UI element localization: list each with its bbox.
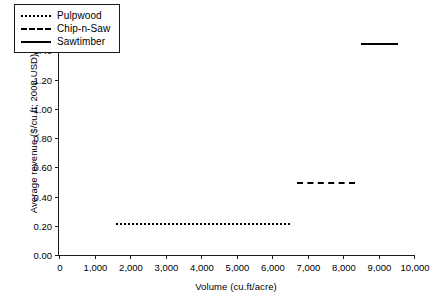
x-axis-tick-label: 9,000	[368, 262, 392, 273]
x-axis-tick: 10,000	[414, 255, 415, 259]
series-line-sawtimber	[361, 43, 398, 45]
x-axis-tick-label: 8,000	[332, 262, 356, 273]
x-axis-tick-label: 1,000	[84, 262, 108, 273]
y-axis-tick: 1.20	[55, 80, 59, 81]
y-axis-tick: 0.60	[55, 167, 59, 168]
series-line-chip-n-saw	[297, 182, 356, 184]
series-line-pulpwood	[116, 223, 290, 225]
x-axis-tick-label: 0	[57, 262, 62, 273]
y-axis-tick-label: 1.00	[34, 104, 53, 115]
x-axis-tick: 5,000	[237, 255, 238, 259]
legend-item-label: Sawtimber	[57, 36, 105, 47]
legend-item-label: Chip-n-Saw	[57, 23, 110, 34]
chart-legend: PulpwoodChip-n-SawSawtimber	[14, 4, 120, 53]
x-axis-tick: 8,000	[343, 255, 344, 259]
x-axis-tick: 4,000	[201, 255, 202, 259]
x-axis-tick: 0	[59, 255, 60, 259]
y-axis-tick: 0.80	[55, 138, 59, 139]
x-axis-tick: 7,000	[308, 255, 309, 259]
legend-key-dotted-line-icon	[21, 15, 51, 17]
y-axis-tick-label: 1.20	[34, 75, 53, 86]
y-axis-tick: 0.20	[55, 226, 59, 227]
y-axis-tick-label: 0.60	[34, 162, 53, 173]
x-axis-tick: 1,000	[95, 255, 96, 259]
legend-item: Sawtimber	[21, 35, 110, 48]
x-axis-tick-label: 10,000	[400, 262, 429, 273]
x-axis-tick: 9,000	[379, 255, 380, 259]
legend-item: Chip-n-Saw	[21, 22, 110, 35]
y-axis-tick-label: 0.80	[34, 133, 53, 144]
y-axis-tick: 0.40	[55, 197, 59, 198]
x-axis-tick: 6,000	[272, 255, 273, 259]
x-axis-tick: 3,000	[166, 255, 167, 259]
x-axis-tick-label: 3,000	[155, 262, 179, 273]
y-axis-tick-label: 0.00	[34, 250, 53, 261]
x-axis-tick-label: 5,000	[226, 262, 250, 273]
x-axis-tick-label: 6,000	[261, 262, 285, 273]
x-axis-tick-label: 7,000	[297, 262, 321, 273]
legend-item: Pulpwood	[21, 9, 110, 22]
y-axis-tick-label: 0.40	[34, 192, 53, 203]
y-axis-tick-label: 0.20	[34, 221, 53, 232]
legend-key-solid-line-icon	[21, 41, 51, 43]
x-axis-tick-label: 4,000	[190, 262, 214, 273]
x-axis-tick: 2,000	[130, 255, 131, 259]
y-axis-tick: 1.00	[55, 109, 59, 110]
legend-key-dashed-line-icon	[21, 28, 51, 30]
x-axis-title: Volume (cu.ft/acre)	[58, 281, 414, 292]
chart-figure: Average revenue ($/cu.ft; 2008 USD) 0.00…	[0, 0, 448, 303]
x-axis-tick-label: 2,000	[119, 262, 143, 273]
legend-item-label: Pulpwood	[57, 10, 102, 21]
plot-area: 0.000.200.400.600.801.001.201.401.6001,0…	[58, 21, 414, 256]
